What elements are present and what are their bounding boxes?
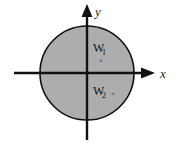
w2-label-subscript: 2: [102, 91, 106, 100]
x-axis-arrowhead: [141, 68, 155, 79]
figure-canvas: x y W 1 × W 2 ×: [0, 0, 181, 149]
y-axis-arrowhead: [82, 4, 93, 17]
w1-label-subscript: 1: [102, 48, 106, 57]
w1-point-marker: ×: [99, 57, 103, 65]
x-axis-label: x: [159, 66, 166, 81]
w2-point-marker: ×: [111, 90, 115, 98]
y-axis-label: y: [93, 4, 101, 19]
diagram-svg: x y W 1 × W 2 ×: [0, 0, 181, 149]
